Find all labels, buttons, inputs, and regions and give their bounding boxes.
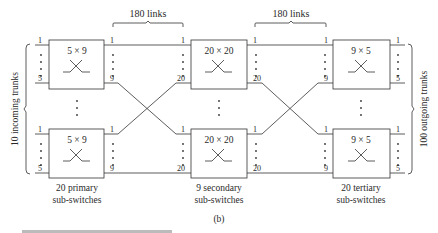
port-label: 1 [110, 36, 114, 45]
port-label: 9 [324, 74, 328, 83]
ellipsis-dots [40, 54, 399, 166]
outgoing-brace [408, 44, 414, 174]
links-stage1-2 [104, 45, 191, 173]
port-label: 9 [110, 74, 114, 83]
secondary-size-label: 20 × 20 [204, 135, 233, 145]
tertiary-caption: 20 tertiary [341, 183, 381, 193]
links-label-left: 180 links [130, 8, 167, 19]
caption-partial [22, 230, 172, 233]
primary-size-label: 5 × 9 [67, 46, 87, 56]
port-label: 1 [324, 36, 328, 45]
port-label: 1 [253, 125, 257, 134]
port-label: 1 [396, 125, 400, 134]
port-label: 9 [324, 164, 328, 173]
tertiary-caption: sub-switches [336, 195, 385, 205]
figure-label: (b) [213, 214, 224, 225]
tertiary-size-label: 9 × 5 [351, 46, 371, 56]
port-label: 1 [38, 125, 42, 134]
port-label: 1 [181, 125, 185, 134]
port-label: 9 [110, 164, 114, 173]
incoming-lines [35, 45, 49, 173]
links-label-right: 180 links [273, 8, 310, 19]
port-label: 20 [253, 74, 261, 83]
primary-size-label: 5 × 9 [67, 135, 87, 145]
port-label: 1 [181, 36, 185, 45]
port-label: 20 [177, 164, 185, 173]
port-label: 5 [38, 74, 42, 83]
secondary-caption: sub-switches [194, 195, 243, 205]
incoming-brace [24, 44, 30, 174]
outgoing-lines [390, 45, 405, 173]
port-label: 5 [396, 74, 400, 83]
links-stage2-3 [247, 45, 333, 173]
three-stage-switch-diagram: 180 links 180 links 5 × 9 5 × 9 20 × 20 … [0, 0, 438, 233]
port-label: 1 [110, 125, 114, 134]
links-brace-right [255, 21, 326, 27]
secondary-size-label: 20 × 20 [204, 46, 233, 56]
port-label: 5 [38, 164, 42, 173]
secondary-caption: 9 secondary [196, 183, 242, 193]
port-label: 1 [324, 125, 328, 134]
port-label: 20 [177, 74, 185, 83]
port-label: 5 [396, 164, 400, 173]
links-brace-left [113, 21, 183, 27]
primary-caption: sub-switches [52, 195, 101, 205]
tertiary-size-label: 9 × 5 [351, 135, 371, 145]
port-label: 20 [253, 164, 261, 173]
port-label: 1 [38, 36, 42, 45]
primary-caption: 20 primary [56, 183, 98, 193]
port-label: 1 [396, 36, 400, 45]
outgoing-trunks-label: 100 outgoing trunks [419, 70, 429, 147]
incoming-trunks-label: 10 incoming trunks [10, 72, 20, 146]
port-label: 1 [253, 36, 257, 45]
